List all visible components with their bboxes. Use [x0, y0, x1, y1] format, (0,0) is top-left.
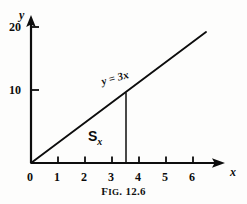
x-tick-label-1: 1: [54, 171, 60, 183]
x-tick-label-6: 6: [189, 171, 195, 183]
figure-caption: FIG. 12.6: [0, 185, 247, 197]
x-axis-label: x: [230, 166, 236, 178]
region-label-base: S: [88, 128, 97, 144]
x-tick-label-5: 5: [162, 171, 168, 183]
y-axis-ticks: [31, 27, 39, 90]
y-tick-label-20: 20: [9, 21, 21, 33]
x-tick-label-3: 3: [108, 171, 114, 183]
x-tick-label-2: 2: [81, 171, 87, 183]
plot-canvas: [0, 0, 247, 204]
region-label-sx: Sx: [88, 129, 102, 147]
y-tick-label-10: 10: [9, 84, 21, 96]
x-tick-label-0: 0: [27, 171, 33, 183]
x-tick-label-4: 4: [135, 171, 141, 183]
function-line-y-equals-3x: [31, 32, 206, 163]
caption-number: . 12.6: [119, 185, 146, 197]
caption-smallcaps: IG: [108, 187, 119, 197]
figure-12-6: y x 20 10 0 1 2 3 4 5 6 y = 3x Sx FIG. 1…: [0, 0, 247, 204]
region-label-subscript: x: [97, 136, 102, 147]
